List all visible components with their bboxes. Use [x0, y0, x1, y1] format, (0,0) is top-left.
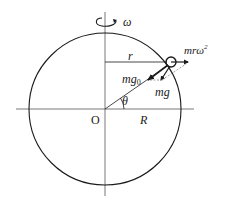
origin-label: O — [91, 113, 100, 127]
rotation-arrow-icon — [96, 18, 117, 26]
omega-label: ω — [123, 15, 131, 29]
earth-radius-label: R — [139, 113, 148, 127]
mg0-label: mg0 — [122, 72, 141, 87]
earth-rotation-diagram: ω r θ mrω2 mg0 mg O R — [0, 0, 228, 205]
r-label: r — [128, 49, 133, 63]
mg-label: mg — [155, 85, 170, 99]
centripetal-label: mrω2 — [184, 43, 208, 56]
theta-label: θ — [122, 94, 128, 108]
